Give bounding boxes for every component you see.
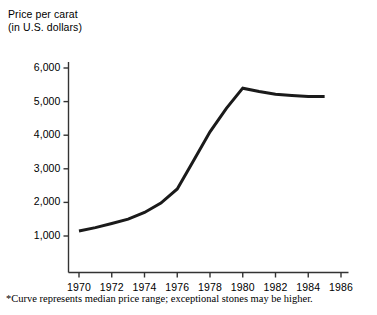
y-axis-tick-label: 3,000: [17, 162, 61, 174]
plot-area: [0, 0, 377, 315]
chart-figure: Price per carat (in U.S. dollars) 1,0002…: [0, 0, 377, 315]
y-axis-tick-label: 6,000: [17, 61, 61, 73]
data-line-series-median-price: [79, 88, 325, 231]
chart-footnote: *Curve represents median price range; ex…: [6, 293, 313, 304]
y-axis-tick-label: 4,000: [17, 128, 61, 140]
y-axis-tick-label: 1,000: [17, 229, 61, 241]
x-axis-tick-label: 1986: [321, 281, 361, 293]
y-axis-tick-label: 2,000: [17, 195, 61, 207]
y-axis-tick-label: 5,000: [17, 95, 61, 107]
